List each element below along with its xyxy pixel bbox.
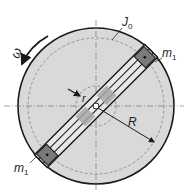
label-R: R [128, 115, 137, 129]
label-omega: ω [7, 46, 25, 61]
label-J0: J0 [121, 15, 133, 31]
rotating-disk-diagram: J0 m1 m1 ω r R [0, 0, 187, 192]
label-m1-bottom: m1 [14, 161, 29, 177]
m1-bottom-leader [30, 157, 36, 163]
label-m1-top: m1 [162, 46, 177, 62]
